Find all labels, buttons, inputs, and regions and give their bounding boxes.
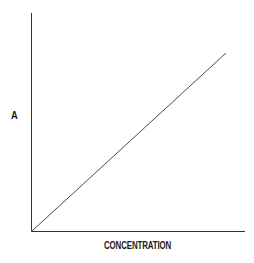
absorbance-chart: A CONCENTRATION xyxy=(0,0,254,263)
chart-canvas xyxy=(0,0,254,263)
y-axis-label: A xyxy=(11,109,18,121)
x-axis-label: CONCENTRATION xyxy=(104,239,171,251)
data-line xyxy=(32,53,226,231)
